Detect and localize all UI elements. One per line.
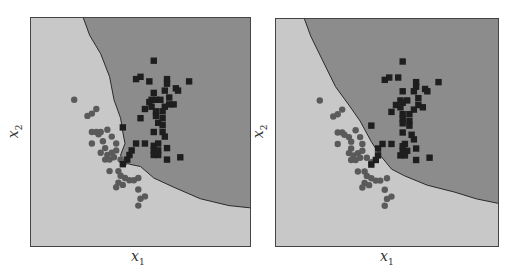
data-point-square: [175, 87, 181, 93]
data-point-square: [120, 124, 126, 130]
data-point-square: [386, 74, 392, 80]
data-point-square: [166, 94, 172, 100]
data-point-circle: [113, 140, 119, 146]
data-point-square: [406, 111, 412, 117]
data-point-square: [153, 113, 159, 119]
data-point-circle: [89, 110, 95, 116]
data-point-circle: [109, 133, 115, 139]
data-point-square: [399, 88, 405, 94]
data-point-circle: [384, 175, 390, 181]
data-point-circle: [106, 168, 112, 174]
data-point-square: [435, 79, 441, 85]
data-point-square: [137, 115, 143, 121]
data-point-square: [164, 156, 170, 162]
data-point-square: [424, 88, 430, 94]
y-label-sub: 2: [14, 125, 24, 131]
data-point-circle: [388, 193, 394, 199]
data-point-square: [159, 122, 165, 128]
y-label-text: x: [250, 130, 266, 138]
data-point-square: [388, 109, 394, 115]
data-point-square: [170, 101, 176, 107]
data-point-circle: [382, 203, 388, 209]
data-point-square: [137, 74, 143, 80]
data-point-square: [420, 104, 426, 110]
right-plot: [275, 18, 499, 247]
data-point-square: [402, 152, 408, 158]
data-point-circle: [135, 186, 141, 192]
data-point-circle: [359, 141, 365, 147]
data-point-square: [162, 87, 168, 93]
data-point-square: [164, 81, 170, 87]
data-point-circle: [113, 147, 119, 153]
data-point-square: [120, 161, 126, 167]
y-label-text: x: [5, 130, 21, 138]
data-point-circle: [71, 97, 77, 103]
data-point-square: [162, 133, 168, 139]
data-point-circle: [113, 184, 119, 190]
data-point-square: [399, 120, 405, 126]
data-point-square: [399, 58, 405, 64]
left-x-axis-label: x1: [131, 248, 145, 267]
data-point-square: [186, 78, 192, 84]
data-point-circle: [359, 148, 365, 154]
data-point-square: [426, 154, 432, 160]
data-point-circle: [352, 127, 358, 133]
data-point-circle: [120, 182, 126, 188]
data-point-square: [413, 157, 419, 163]
data-point-circle: [111, 154, 117, 160]
data-point-square: [368, 122, 374, 128]
data-point-square: [413, 145, 419, 151]
data-point-circle: [339, 106, 345, 112]
data-point-square: [142, 106, 148, 112]
data-point-circle: [348, 138, 354, 144]
data-point-square: [399, 129, 405, 135]
data-point-circle: [102, 145, 108, 151]
data-point-circle: [135, 202, 141, 208]
data-point-square: [388, 141, 394, 147]
x-label-text: x: [380, 248, 388, 264]
data-point-square: [395, 74, 401, 80]
data-point-square: [406, 122, 412, 128]
left-plot-canvas: [30, 17, 251, 247]
data-point-circle: [359, 184, 365, 190]
data-point-square: [142, 140, 148, 146]
x-label-sub: 1: [388, 257, 394, 267]
data-point-circle: [382, 187, 388, 193]
data-point-square: [415, 95, 421, 101]
data-point-square: [404, 97, 410, 103]
data-point-circle: [98, 150, 104, 156]
data-point-circle: [335, 141, 341, 147]
data-point-circle: [93, 106, 99, 112]
data-point-square: [177, 154, 183, 160]
data-point-square: [151, 129, 157, 135]
data-point-circle: [100, 138, 106, 144]
data-point-circle: [364, 154, 370, 160]
left-y-axis-label: x2: [5, 125, 24, 139]
right-x-axis-label: x1: [380, 248, 394, 267]
data-point-square: [375, 145, 381, 151]
data-point-square: [155, 152, 161, 158]
right-plot-canvas: [275, 18, 499, 247]
data-point-circle: [357, 154, 363, 160]
data-point-square: [411, 136, 417, 142]
data-point-circle: [142, 193, 148, 199]
data-point-circle: [357, 134, 363, 140]
data-point-circle: [355, 168, 361, 174]
data-point-circle: [366, 182, 372, 188]
x-label-sub: 1: [139, 257, 145, 267]
data-point-circle: [131, 177, 137, 183]
data-point-square: [411, 88, 417, 94]
data-point-circle: [98, 129, 104, 135]
data-point-square: [151, 58, 157, 64]
data-point-circle: [377, 177, 383, 183]
x-label-text: x: [131, 248, 139, 264]
data-point-circle: [89, 140, 95, 146]
data-point-circle: [335, 111, 341, 117]
data-point-square: [159, 108, 165, 114]
data-point-square: [146, 78, 152, 84]
y-label-sub: 2: [259, 125, 269, 131]
data-point-square: [151, 90, 157, 96]
data-point-square: [133, 140, 139, 146]
right-y-axis-label: x2: [250, 125, 269, 139]
data-point-circle: [104, 127, 110, 133]
